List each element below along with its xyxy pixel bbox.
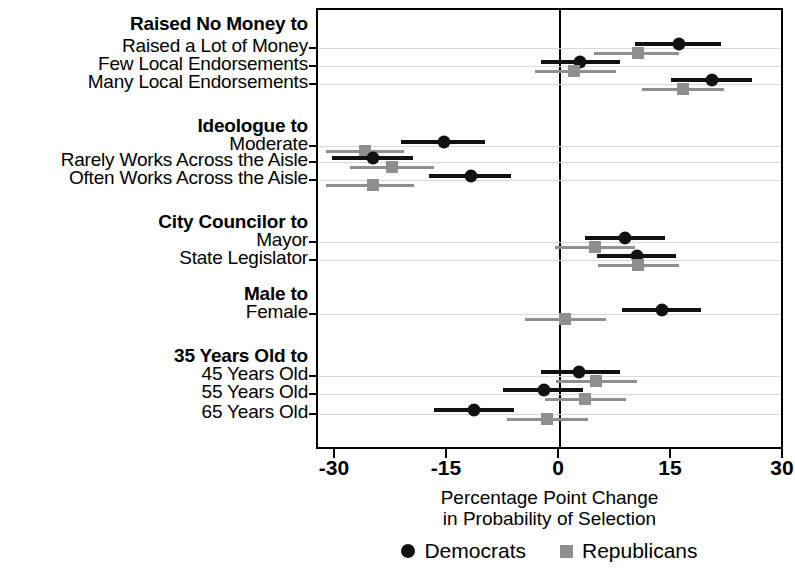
x-axis-tick-label: -15 [431, 456, 461, 480]
y-axis-tick [309, 393, 318, 395]
x-axis-tick-label: 15 [658, 456, 681, 480]
gridline [318, 66, 781, 67]
gridline [318, 394, 781, 395]
y-axis-tick [309, 375, 318, 377]
y-axis-row-label: State Legislator [179, 248, 308, 268]
plot-panel [316, 8, 783, 449]
square-marker-icon [541, 413, 553, 425]
y-axis-tick [309, 83, 318, 85]
y-axis-row-label: Often Works Across the Aisle [69, 168, 308, 188]
square-marker-icon [632, 259, 644, 271]
legend-item-republicans: Republicans [560, 539, 698, 563]
square-marker-icon [677, 83, 689, 95]
gridline [318, 180, 781, 181]
y-axis-row-label: Many Local Endorsements [88, 72, 308, 92]
y-axis-category-labels: Raised No Money toRaised a Lot of MoneyF… [0, 0, 312, 450]
y-axis-tick [309, 413, 318, 415]
y-axis-tick [309, 259, 318, 261]
square-marker-icon [367, 179, 379, 191]
y-axis-tick [309, 241, 318, 243]
forest-plot-figure: Raised No Money toRaised a Lot of MoneyF… [0, 0, 795, 573]
square-marker-icon [589, 241, 601, 253]
circle-marker-icon [655, 304, 668, 317]
square-marker-icon [632, 47, 644, 59]
gridline [318, 260, 781, 261]
y-axis-tick [309, 179, 318, 181]
y-axis-tick [309, 161, 318, 163]
x-axis-tick-label: -30 [319, 456, 349, 480]
square-marker-icon [560, 545, 573, 558]
y-axis-row-label: Female [246, 302, 308, 322]
square-marker-icon [386, 161, 398, 173]
gridline [318, 242, 781, 243]
legend-item-democrats: Democrats [401, 539, 526, 563]
gridline [318, 146, 781, 147]
circle-marker-icon [438, 136, 451, 149]
y-axis-tick [309, 65, 318, 67]
legend-label-democrats: Democrats [424, 539, 526, 563]
square-marker-icon [568, 65, 580, 77]
gridline [318, 376, 781, 377]
y-axis-group-header: Raised No Money to [130, 14, 308, 34]
legend-label-republicans: Republicans [582, 539, 698, 563]
square-marker-icon [559, 313, 571, 325]
y-axis-tick [309, 47, 318, 49]
x-axis-tick-label: 30 [770, 456, 793, 480]
square-marker-icon [579, 393, 591, 405]
legend: Democrats Republicans [316, 534, 783, 568]
square-marker-icon [590, 375, 602, 387]
x-axis-tick-label: 0 [552, 456, 564, 480]
gridline [318, 48, 781, 49]
circle-marker-icon [537, 384, 550, 397]
x-axis-title-line2: in Probability of Selection [316, 508, 783, 529]
y-axis-row-label: 65 Years Old [202, 402, 308, 422]
circle-marker-icon [465, 170, 478, 183]
circle-marker-icon [573, 366, 586, 379]
gridline [318, 314, 781, 315]
circle-marker-icon [401, 544, 415, 558]
circle-marker-icon [366, 152, 379, 165]
circle-marker-icon [618, 232, 631, 245]
y-axis-row-label: 55 Years Old [202, 382, 308, 402]
y-axis-tick [309, 145, 318, 147]
x-axis-title-line1: Percentage Point Change [316, 487, 783, 508]
y-axis-tick [309, 313, 318, 315]
x-axis-tick-labels: -30-1501530 [316, 456, 783, 484]
circle-marker-icon [705, 74, 718, 87]
circle-marker-icon [672, 38, 685, 51]
x-axis-title: Percentage Point Change in Probability o… [316, 487, 783, 529]
circle-marker-icon [468, 404, 481, 417]
